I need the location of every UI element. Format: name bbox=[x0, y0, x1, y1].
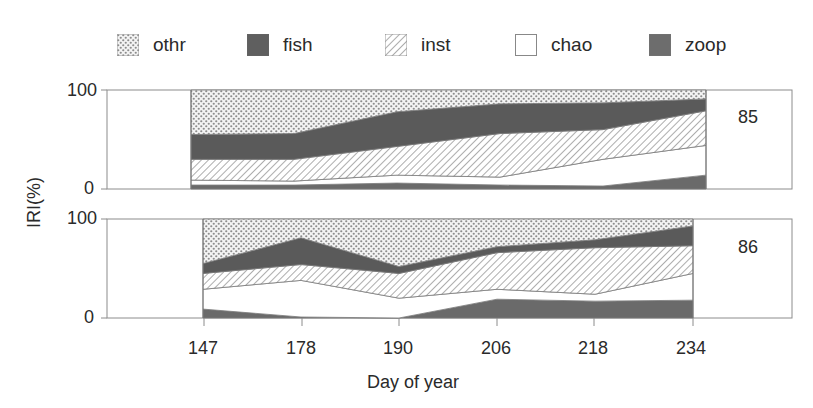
xtick-218: 218 bbox=[578, 338, 608, 359]
x-axis-label: Day of year bbox=[367, 372, 459, 393]
panel-86 bbox=[101, 219, 792, 318]
xtick-178: 178 bbox=[286, 338, 316, 359]
y-axis-label: IRI(%) bbox=[24, 173, 45, 233]
ytick-100-top: 100 bbox=[67, 80, 97, 101]
xtick-147: 147 bbox=[188, 338, 218, 359]
panel-label-85: 85 bbox=[738, 107, 758, 128]
xtick-234: 234 bbox=[676, 338, 706, 359]
xtick-206: 206 bbox=[481, 338, 511, 359]
ytick-100-bottom: 100 bbox=[67, 208, 97, 229]
ytick-0-bottom: 0 bbox=[84, 307, 94, 328]
panel-label-86: 86 bbox=[738, 237, 758, 258]
panels bbox=[101, 90, 792, 326]
panel-85 bbox=[101, 90, 792, 189]
xtick-190: 190 bbox=[383, 338, 413, 359]
ytick-0-top: 0 bbox=[84, 178, 94, 199]
